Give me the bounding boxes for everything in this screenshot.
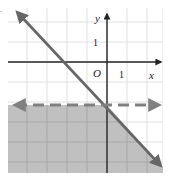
coordinate-plane-graph: x y O 1 1 . (0, 0, 171, 181)
y-axis-label: y (94, 12, 100, 24)
corner-mark-label: . (0, 4, 2, 14)
x-tick-label-one: 1 (119, 69, 124, 80)
x-axis-label: x (148, 69, 154, 81)
y-tick-label-one: 1 (93, 37, 98, 48)
origin-label: O (93, 67, 101, 79)
figure-container: x y O 1 1 . (0, 0, 171, 181)
